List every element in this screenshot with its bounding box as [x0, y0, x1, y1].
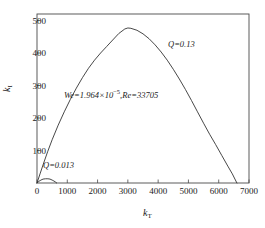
y-tick-label: 100 [24, 146, 46, 155]
y-tick-label: 400 [24, 49, 46, 58]
annotation-parameters-prefix: We=1.964×10 [64, 90, 113, 100]
x-tick-label: 5000 [179, 187, 197, 196]
annotation-parameters: We=1.964×10−5,Re=33705 [64, 89, 158, 99]
x-tick-label: 3000 [119, 187, 137, 196]
y-axis-title: kI [2, 85, 12, 92]
y-tick-label: 200 [24, 114, 46, 123]
annotation-q-low: Q=0.013 [43, 161, 74, 170]
y-tick-label: 500 [24, 16, 46, 25]
annotation-parameters-suffix: ,Re=33705 [120, 90, 158, 100]
x-tick-label: 7000 [240, 187, 258, 196]
y-axis-title-symbol: k [1, 88, 12, 92]
x-axis-title: kT [143, 208, 152, 218]
x-tick-label: 2000 [89, 187, 107, 196]
chart-figure: 01000200030004000500060007000 1002003004… [0, 0, 265, 228]
x-tick-label: 4000 [149, 187, 167, 196]
x-axis-title-subscript: T [147, 212, 151, 220]
x-tick-label: 6000 [210, 187, 228, 196]
y-axis-title-subscript: I [6, 85, 14, 87]
x-tick-label: 1000 [58, 187, 76, 196]
annotation-q-high: Q=0.13 [168, 40, 195, 49]
y-tick-label: 300 [24, 81, 46, 90]
x-tick-label: 0 [35, 187, 40, 196]
